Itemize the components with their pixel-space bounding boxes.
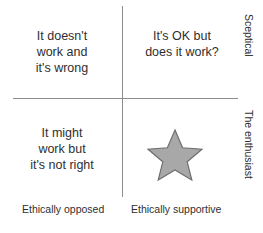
y-axis-top-label: Sceptical <box>243 14 255 57</box>
quadrant-diagram: It doesn't work and it's wrong It's OK b… <box>0 0 263 233</box>
quadrant-bottom-left-label: It might work but it's not right <box>8 125 116 173</box>
star-icon <box>147 128 203 182</box>
vertical-axis-line <box>122 6 123 197</box>
y-axis-bottom-label: The enthusiast <box>243 110 255 179</box>
x-axis-right-label: Ethically supportive <box>131 203 221 216</box>
horizontal-axis-line <box>13 98 238 99</box>
quadrant-top-right-label: It's OK but does it work? <box>128 28 236 60</box>
x-axis-left-label: Ethically opposed <box>22 203 104 216</box>
quadrant-top-left-label: It doesn't work and it's wrong <box>8 28 116 76</box>
